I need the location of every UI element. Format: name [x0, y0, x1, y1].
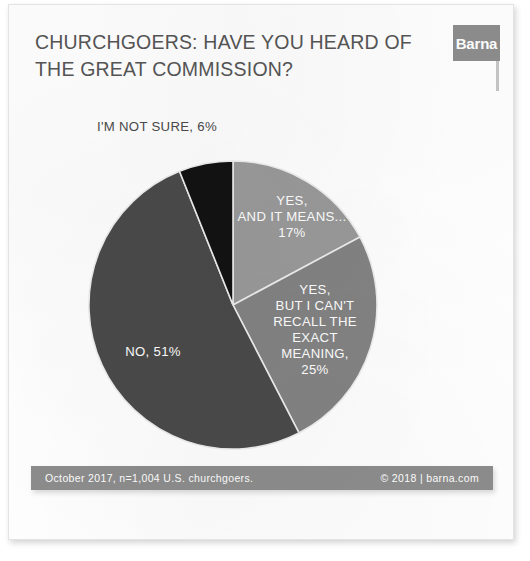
barna-logo: Barna — [453, 25, 500, 61]
footer-copyright: © 2018 | barna.com — [381, 466, 479, 490]
pie-chart-svg: YES, AND IT MEANS... 17% YES, BUT I CAN'… — [9, 5, 514, 540]
footer-bar: October 2017, n=1,004 U.S. churchgoers. … — [31, 466, 493, 490]
pie-label-yes-and-it-means-line-1: YES, — [276, 193, 307, 208]
pie-label-yes-but-i-cant-recall-line-3: RECALL THE — [273, 314, 357, 329]
barna-logo-stem — [496, 61, 499, 91]
infographic-card: CHURCHGOERS: HAVE YOU HEARD OF THE GREAT… — [8, 4, 514, 540]
pie-chart: YES, AND IT MEANS... 17% YES, BUT I CAN'… — [9, 5, 514, 540]
pie-label-yes-and-it-means-line-2: AND IT MEANS... — [237, 209, 346, 224]
pie-label-yes-but-i-cant-recall-line-5: MEANING, — [281, 346, 349, 361]
footer-source-note: October 2017, n=1,004 U.S. churchgoers. — [45, 466, 253, 490]
pie-label-no: NO, 51% — [125, 344, 181, 359]
pie-label-yes-but-i-cant-recall-line-1: YES, — [299, 282, 330, 297]
pie-label-yes-but-i-cant-recall-line-2: BUT I CAN'T — [276, 298, 355, 313]
pie-label-yes-but-i-cant-recall-line-6: 25% — [301, 362, 328, 377]
pie-label-im-not-sure: I'M NOT SURE, 6% — [97, 119, 217, 134]
barna-logo-label: Barna — [456, 36, 498, 51]
pie-label-yes-but-i-cant-recall-line-4: EXACT — [292, 330, 337, 345]
barna-logo-box: Barna — [453, 25, 500, 61]
pie-label-yes-and-it-means-line-3: 17% — [278, 225, 305, 240]
pie-label-no-line-1: NO, 51% — [125, 344, 181, 359]
page-title-line-1: CHURCHGOERS: HAVE YOU HEARD OF — [35, 29, 435, 56]
page-title-line-2: THE GREAT COMMISSION? — [35, 56, 435, 83]
page-title: CHURCHGOERS: HAVE YOU HEARD OF THE GREAT… — [35, 29, 435, 83]
